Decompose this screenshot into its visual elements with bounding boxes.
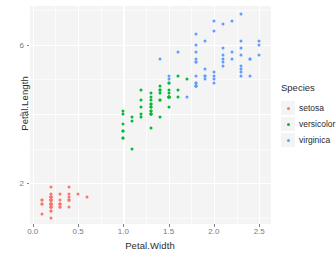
data-point [49, 216, 52, 219]
data-point [49, 202, 52, 205]
data-point [176, 74, 179, 77]
data-point [49, 185, 52, 188]
data-point [221, 64, 224, 67]
data-point [58, 206, 61, 209]
gridline-minor-horizontal [30, 10, 271, 11]
data-point [231, 57, 234, 60]
data-point [77, 192, 80, 195]
data-point [194, 43, 197, 46]
legend-key-swatch [281, 117, 295, 131]
data-point [122, 109, 125, 112]
data-point [158, 92, 161, 95]
data-point [67, 206, 70, 209]
data-point [176, 95, 179, 98]
data-point [249, 57, 252, 60]
gridline-major-horizontal [30, 45, 271, 46]
data-point [158, 57, 161, 60]
data-point [221, 47, 224, 50]
legend-item-virginica[interactable]: virginica [281, 132, 336, 148]
data-point [194, 33, 197, 36]
legend-item-setosa[interactable]: setosa [281, 100, 336, 116]
data-point [167, 78, 170, 81]
data-point [122, 130, 125, 133]
data-point [231, 50, 234, 53]
data-point [149, 109, 152, 112]
data-point [221, 57, 224, 60]
data-point [167, 95, 170, 98]
data-point [149, 126, 152, 129]
legend-point-icon [287, 107, 290, 110]
data-point [176, 50, 179, 53]
gridline-minor-horizontal [30, 79, 271, 80]
data-point [40, 202, 43, 205]
gridline-major-horizontal [30, 183, 271, 184]
data-point [167, 106, 170, 109]
y-axis-tick [27, 183, 30, 184]
y-axis-tick-label: 2 [20, 179, 24, 188]
data-point [67, 185, 70, 188]
data-point [122, 137, 125, 140]
data-point [149, 102, 152, 105]
data-point [240, 64, 243, 67]
data-point [140, 116, 143, 119]
data-point [49, 206, 52, 209]
data-point [158, 99, 161, 102]
data-point [194, 61, 197, 64]
data-point [58, 192, 61, 195]
data-point [240, 54, 243, 57]
x-axis-tick-label: 1.5 [163, 227, 174, 236]
data-point [249, 74, 252, 77]
y-axis-tick [27, 45, 30, 46]
data-point [258, 43, 261, 46]
data-point [167, 88, 170, 91]
gridline-minor-horizontal [30, 218, 271, 219]
data-point [140, 112, 143, 115]
data-point [194, 85, 197, 88]
data-point [167, 74, 170, 77]
data-point [203, 40, 206, 43]
data-point [58, 202, 61, 205]
data-point [194, 50, 197, 53]
data-point [131, 119, 134, 122]
data-point [185, 95, 188, 98]
legend-items: setosaversicolorvirginica [281, 100, 336, 148]
data-point [240, 71, 243, 74]
data-point [240, 12, 243, 15]
data-point [185, 78, 188, 81]
data-point [167, 81, 170, 84]
legend-point-icon [287, 123, 290, 126]
data-point [67, 199, 70, 202]
data-point [231, 19, 234, 22]
data-point [203, 67, 206, 70]
legend-item-versicolor[interactable]: versicolor [281, 116, 336, 132]
legend-item-label: virginica [299, 135, 330, 145]
gridline-minor-horizontal [30, 149, 271, 150]
x-axis-tick-label: 1.0 [118, 227, 129, 236]
x-axis-tick-label: 0.5 [72, 227, 83, 236]
data-point [258, 54, 261, 57]
data-point [131, 147, 134, 150]
x-axis-title: Petal.Width [30, 240, 270, 251]
data-point [212, 19, 215, 22]
legend-item-label: setosa [299, 103, 324, 113]
data-point [240, 40, 243, 43]
data-point [203, 78, 206, 81]
data-point [140, 88, 143, 91]
legend-title: Species [281, 82, 336, 93]
data-point [258, 40, 261, 43]
data-point [140, 106, 143, 109]
data-point [212, 81, 215, 84]
data-point [149, 112, 152, 115]
data-point [212, 29, 215, 32]
data-point [49, 209, 52, 212]
data-point [158, 116, 161, 119]
data-point [122, 123, 125, 126]
data-point [240, 74, 243, 77]
legend-key-swatch [281, 133, 295, 147]
data-point [122, 112, 125, 115]
legend-key-swatch [281, 101, 295, 115]
data-point [40, 213, 43, 216]
data-point [158, 85, 161, 88]
data-point [221, 22, 224, 25]
y-axis-tick [27, 114, 30, 115]
